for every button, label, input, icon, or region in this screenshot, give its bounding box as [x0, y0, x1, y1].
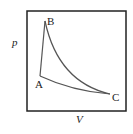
- y-axis-label: p: [11, 36, 18, 48]
- process-a-to-b: [40, 21, 45, 76]
- point-label-a: A: [35, 78, 43, 90]
- process-b-to-c: [45, 21, 110, 94]
- point-label-c: C: [112, 91, 119, 103]
- x-axis-label: V: [76, 113, 84, 125]
- point-label-b: B: [47, 15, 54, 27]
- pv-diagram: B A C p V: [0, 0, 133, 134]
